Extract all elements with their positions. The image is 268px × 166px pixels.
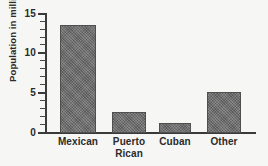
y-tick-minor-1 [40, 124, 45, 125]
y-tick-label-5: 5 [0, 87, 36, 98]
y-tick-minor-3 [40, 108, 45, 109]
y-tick-label-0: 0 [0, 127, 36, 138]
y-tick-minor-8 [40, 68, 45, 69]
y-tick-minor-11 [40, 44, 45, 45]
bar-mexican [60, 25, 96, 133]
x-tick-label-mexican: Mexican [48, 136, 108, 148]
y-tick-minor-9 [40, 60, 45, 61]
y-tick-minor-13 [40, 29, 45, 30]
plot-area: 15 10 5 0 Population in millions Mexican… [0, 0, 268, 166]
y-tick-major-15 [38, 13, 45, 15]
y-tick-label-15: 15 [0, 8, 36, 19]
y-tick-label-10: 10 [0, 47, 36, 58]
x-tick-label-cuban: Cuban [147, 136, 203, 148]
y-tick-major-0 [38, 132, 45, 134]
y-tick-major-10 [38, 52, 45, 54]
y-axis-line [45, 13, 47, 134]
y-axis-title: Population in millions [7, 0, 18, 84]
x-tick-label-other: Other [196, 136, 252, 148]
y-tick-minor-6 [40, 84, 45, 85]
x-tick-label-line1: Cuban [147, 136, 203, 148]
y-tick-minor-14 [40, 21, 45, 22]
bar-other [207, 92, 241, 133]
y-tick-minor-12 [40, 37, 45, 38]
x-tick-label-line1: Other [196, 136, 252, 148]
y-tick-minor-7 [40, 76, 45, 77]
y-tick-minor-2 [40, 116, 45, 117]
bar-puerto-rican [112, 112, 146, 133]
x-tick-label-line2: Rican [100, 148, 158, 160]
bar-chart: 15 10 5 0 Population in millions Mexican… [0, 0, 268, 166]
y-tick-minor-4 [40, 100, 45, 101]
bar-cuban [159, 123, 191, 133]
x-tick-label-line1: Mexican [48, 136, 108, 148]
y-tick-major-5 [38, 92, 45, 94]
